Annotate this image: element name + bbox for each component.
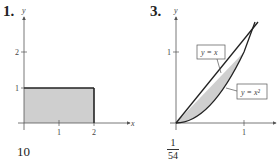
callout-label-y-equals-x: y = x xyxy=(200,48,218,57)
curve-y-equals-x xyxy=(176,22,258,123)
y-axis-label: y xyxy=(173,6,178,15)
answer-3-numerator: 1 xyxy=(171,137,176,148)
x-tick-1: 1 xyxy=(57,128,61,137)
x-tick-1: 1 xyxy=(242,128,246,137)
graphs: y x 1 2 2 1 y 1 1 y = x y = x² xyxy=(0,0,279,168)
answer-3-denominator: 54 xyxy=(168,150,178,161)
answer-3: 1 54 xyxy=(165,138,181,161)
y-axis-label: y xyxy=(21,6,26,15)
callout-label-y-equals-x-squared: y = x² xyxy=(240,88,261,97)
y-tick-2: 2 xyxy=(15,48,19,57)
graph-3: y 1 1 y = x y = x² xyxy=(167,6,276,137)
shaded-region-rectangle xyxy=(24,88,94,123)
shaded-region-between-curves xyxy=(176,52,244,123)
x-axis-label: x xyxy=(130,119,135,128)
x-tick-2: 2 xyxy=(92,128,96,137)
answer-1: 10 xyxy=(17,144,30,160)
y-tick-1: 1 xyxy=(167,48,171,57)
y-tick-1: 1 xyxy=(15,84,19,93)
graph-1: y x 1 2 2 1 xyxy=(15,6,135,137)
